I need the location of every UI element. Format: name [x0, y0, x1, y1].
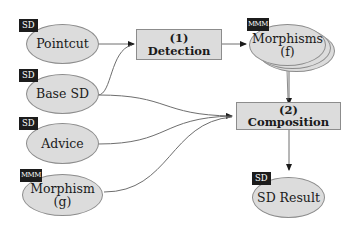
- mmm-tag: MMM: [247, 18, 269, 31]
- process-label: (2) Composition: [237, 104, 340, 128]
- process-label: (1) Detection: [137, 32, 221, 56]
- edge-morphismg-composition: [104, 117, 232, 192]
- node-label-line2: (f): [280, 45, 294, 58]
- node-label: Advice: [41, 137, 84, 150]
- sd-tag: SD: [19, 69, 38, 82]
- edge-basesd-detection: [98, 45, 132, 95]
- edge-basesd-composition: [98, 95, 232, 116]
- sd-tag: SD: [252, 172, 271, 185]
- node-label-line2: (g): [54, 195, 72, 208]
- process-composition[interactable]: (2) Composition: [236, 102, 341, 130]
- sd-tag: SD: [19, 117, 38, 130]
- sd-tag: SD: [19, 19, 38, 32]
- node-label: SD Result: [257, 191, 320, 204]
- node-label: Pointcut: [36, 37, 89, 50]
- edge-advice-composition: [98, 116, 232, 144]
- process-detection[interactable]: (1) Detection: [136, 29, 222, 60]
- node-label: Base SD: [36, 87, 89, 100]
- mmm-tag: MMM: [20, 169, 42, 182]
